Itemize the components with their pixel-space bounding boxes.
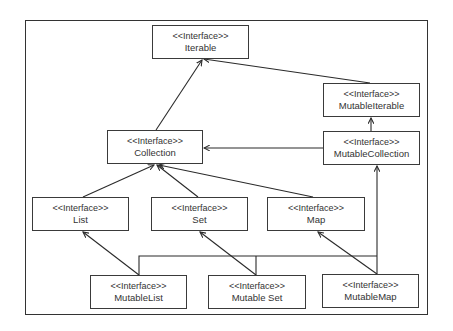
node-mutable-iterable[interactable]: <<Interface>> MutableIterable xyxy=(323,83,420,117)
node-mutable-collection[interactable]: <<Interface>> MutableCollection xyxy=(323,131,420,165)
edge-collection-iterable xyxy=(156,60,202,130)
node-stereotype: <<Interface>> xyxy=(229,280,285,293)
node-iterable[interactable]: <<Interface>> Iterable xyxy=(152,25,249,59)
node-stereotype: <<Interface>> xyxy=(172,30,228,43)
node-label: List xyxy=(73,214,88,227)
edge-mutableset-set xyxy=(200,232,256,275)
edge-mutableiterable-iterable xyxy=(204,59,370,83)
node-stereotype: <<Interface>> xyxy=(288,202,344,215)
node-stereotype: <<Interface>> xyxy=(343,88,399,101)
edge-map-collection xyxy=(159,165,313,197)
node-stereotype: <<Interface>> xyxy=(342,279,398,292)
node-label: Set xyxy=(192,214,206,227)
node-list[interactable]: <<Interface>> List xyxy=(32,197,129,231)
node-label: Iterable xyxy=(185,42,217,55)
node-collection[interactable]: <<Interface>> Collection xyxy=(107,130,203,164)
node-set[interactable]: <<Interface>> Set xyxy=(151,197,248,231)
node-mutable-set[interactable]: <<Interface>> Mutable Set xyxy=(208,275,306,309)
node-stereotype: <<Interface>> xyxy=(110,280,166,293)
edge-mutablelist-list xyxy=(83,232,139,275)
node-stereotype: <<Interface>> xyxy=(171,202,227,215)
node-label: Collection xyxy=(134,147,176,160)
node-label: Map xyxy=(307,214,325,227)
node-label: MutableList xyxy=(114,292,163,305)
node-label: Mutable Set xyxy=(232,292,283,305)
edge-list-collection xyxy=(83,165,154,197)
node-label: MutableMap xyxy=(344,291,396,304)
edge-bus-mutablelist xyxy=(139,256,377,275)
node-stereotype: <<Interface>> xyxy=(52,202,108,215)
edge-set-collection xyxy=(157,165,198,197)
node-label: MutableIterable xyxy=(339,100,404,113)
node-stereotype: <<Interface>> xyxy=(343,136,399,149)
node-map[interactable]: <<Interface>> Map xyxy=(267,197,365,231)
edge-mutablemap-map xyxy=(318,232,377,274)
node-mutable-map[interactable]: <<Interface>> MutableMap xyxy=(322,274,419,308)
node-stereotype: <<Interface>> xyxy=(127,135,183,148)
node-mutable-list[interactable]: <<Interface>> MutableList xyxy=(90,275,187,309)
node-label: MutableCollection xyxy=(334,148,410,161)
